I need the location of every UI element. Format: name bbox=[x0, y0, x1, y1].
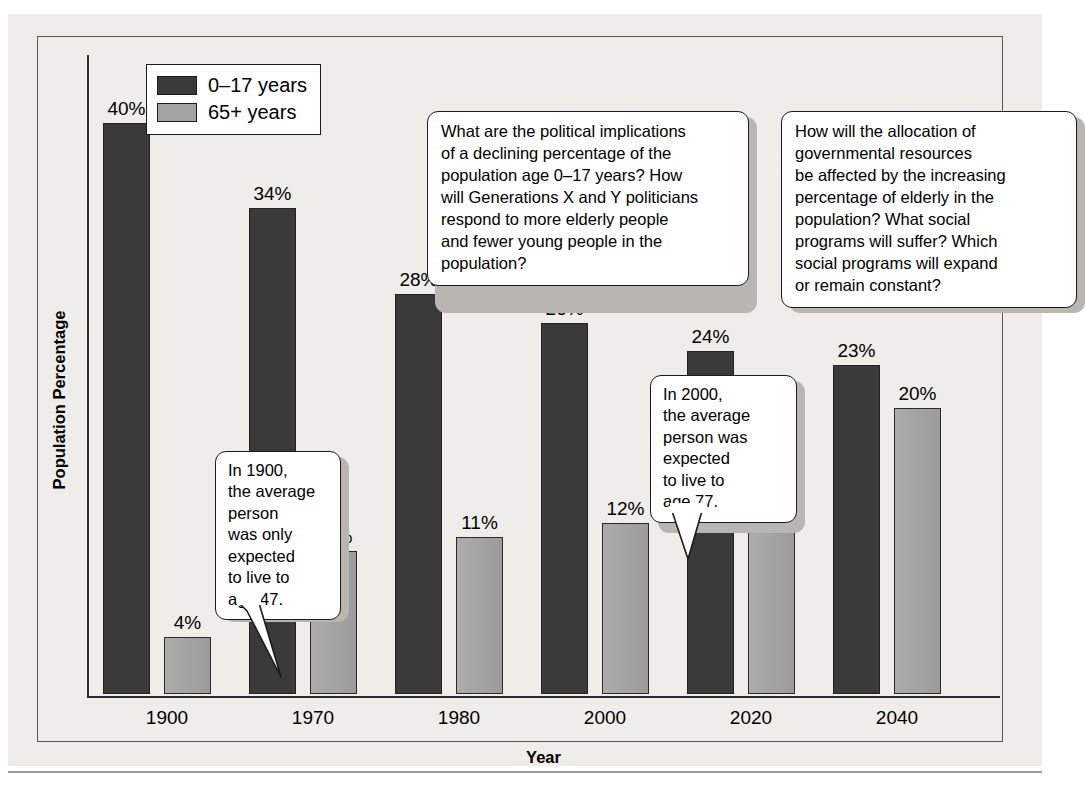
bar-value-label: 4% bbox=[153, 612, 223, 634]
bar-1900-young bbox=[103, 123, 150, 694]
callout-1900-line: In 1900, bbox=[228, 460, 328, 481]
callout-1900-line: the average bbox=[228, 481, 328, 502]
legend-swatch-young-icon bbox=[157, 76, 197, 95]
question-box-1-line: respond to more elderly people bbox=[441, 209, 735, 231]
question-box-1-line: population? bbox=[441, 253, 735, 275]
callout-1900-tail-icon bbox=[215, 595, 345, 695]
legend-item-old: 65+ years bbox=[157, 99, 307, 126]
callout-2000-line: the average bbox=[663, 405, 784, 426]
y-axis-title: Population Percentage bbox=[46, 250, 72, 550]
x-axis-title: Year bbox=[87, 748, 1000, 767]
question-box-2-line: programs will suffer? Which bbox=[795, 231, 1063, 253]
callout-2000-line: person was bbox=[663, 427, 784, 448]
question-box-1-line: will Generations X and Y politicians bbox=[441, 187, 735, 209]
chart-legend: 0–17 years 65+ years bbox=[146, 64, 321, 135]
bar-value-label: 23% bbox=[822, 340, 892, 362]
question-box-2-line: be affected by the increasing bbox=[795, 165, 1063, 187]
bar-2000-young bbox=[541, 323, 588, 694]
x-tick-label-2000: 2000 bbox=[545, 707, 665, 729]
legend-item-young: 0–17 years bbox=[157, 72, 307, 99]
x-tick-label-1900: 1900 bbox=[107, 707, 227, 729]
question-box-2-line: or remain constant? bbox=[795, 275, 1063, 297]
legend-label-old: 65+ years bbox=[208, 101, 296, 124]
bar-value-label: 20% bbox=[883, 383, 953, 405]
question-box-1-line: and fewer young people in the bbox=[441, 231, 735, 253]
x-tick-label-1970: 1970 bbox=[253, 707, 373, 729]
plot-area: 40%4%34%10%28%11%26%12%24%17%23%20% 1900… bbox=[87, 55, 1000, 698]
bar-1980-old bbox=[456, 537, 503, 694]
y-axis-title-text: Population Percentage bbox=[50, 311, 69, 490]
question-box-1-line: of a declining percentage of the bbox=[441, 143, 735, 165]
callout-1900-line: expected bbox=[228, 546, 328, 567]
question-box-1-line: population age 0–17 years? How bbox=[441, 165, 735, 187]
legend-label-young: 0–17 years bbox=[208, 74, 307, 97]
callout-2000-line: to live to bbox=[663, 470, 784, 491]
x-tick-label-2040: 2040 bbox=[837, 707, 957, 729]
question-box-2-line: percentage of elderly in the bbox=[795, 187, 1063, 209]
bar-value-label: 24% bbox=[676, 326, 746, 348]
bar-2040-young bbox=[833, 365, 880, 694]
question-box-2-line: How will the allocation of bbox=[795, 121, 1063, 143]
bar-group: 40%4% bbox=[103, 53, 231, 696]
x-tick-label-2020: 2020 bbox=[691, 707, 811, 729]
question-box-2: How will the allocation of governmental … bbox=[781, 111, 1077, 308]
callout-2000-tail-icon bbox=[650, 503, 770, 573]
question-box-2-line: social programs will expand bbox=[795, 253, 1063, 275]
bar-1980-young bbox=[395, 294, 442, 694]
question-box-2-line: population? What social bbox=[795, 209, 1063, 231]
callout-2000-line: expected bbox=[663, 448, 784, 469]
bar-2040-old bbox=[894, 408, 941, 694]
bar-value-label: 34% bbox=[238, 183, 308, 205]
question-box-2-line: governmental resources bbox=[795, 143, 1063, 165]
bar-1900-old bbox=[164, 637, 211, 694]
callout-1900-line: to live to bbox=[228, 567, 328, 588]
legend-swatch-old-icon bbox=[157, 103, 197, 122]
question-box-1: What are the political implications of a… bbox=[427, 111, 749, 286]
question-box-1-line: What are the political implications bbox=[441, 121, 735, 143]
x-tick-label-1980: 1980 bbox=[399, 707, 519, 729]
bar-value-label: 11% bbox=[445, 512, 515, 534]
callout-1900-line: person bbox=[228, 503, 328, 524]
bar-2000-old bbox=[602, 523, 649, 694]
callout-2000: In 2000, the average person was expected… bbox=[650, 375, 797, 523]
callout-1900-line: was only bbox=[228, 524, 328, 545]
callout-2000-line: In 2000, bbox=[663, 384, 784, 405]
page-divider-rule bbox=[8, 771, 1042, 773]
